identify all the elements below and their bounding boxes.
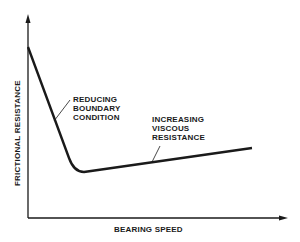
y-axis-label: FRICTIONAL RESISTANCE <box>13 80 22 186</box>
annotation-line: BOUNDARY <box>73 104 121 113</box>
y-axis-arrow-icon <box>26 14 31 23</box>
leader-line-viscous <box>152 146 160 162</box>
annotation-line: REDUCING <box>73 95 117 104</box>
annotation-increasing-viscous: INCREASING VISCOUS RESISTANCE <box>152 115 205 142</box>
annotation-line: INCREASING <box>152 115 204 124</box>
annotation-reducing-boundary: REDUCING BOUNDARY CONDITION <box>73 95 121 122</box>
x-axis-arrow-icon <box>279 216 288 221</box>
friction-curve <box>28 47 252 172</box>
leader-line-boundary <box>54 100 70 121</box>
annotation-line: RESISTANCE <box>152 133 205 142</box>
friction-curve-diagram: REDUCING BOUNDARY CONDITION INCREASING V… <box>0 0 300 242</box>
x-axis-label: BEARING SPEED <box>114 225 183 234</box>
annotation-line: CONDITION <box>73 113 120 122</box>
annotation-line: VISCOUS <box>152 124 190 133</box>
